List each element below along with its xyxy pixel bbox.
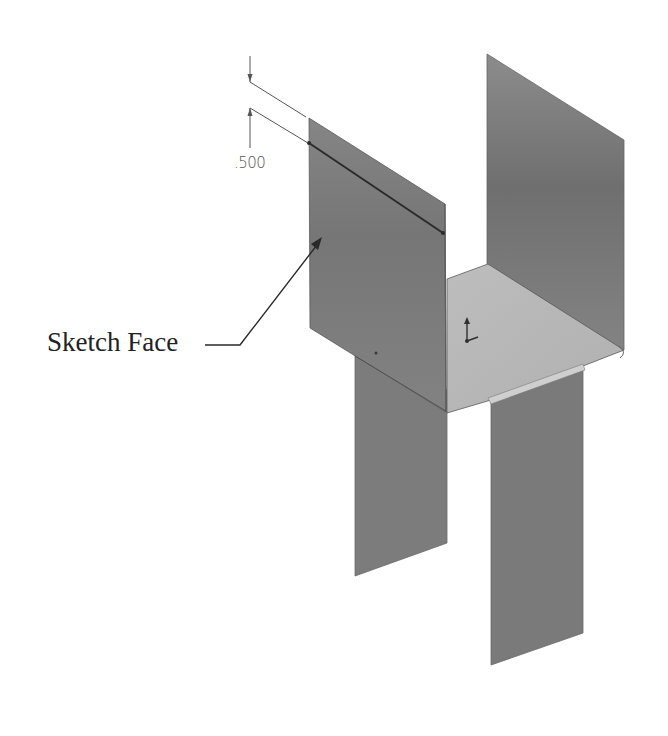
dimension-value: .500	[234, 154, 265, 172]
dimension-annotation	[248, 56, 309, 148]
callout-leader	[205, 237, 322, 345]
sketch-face-panel	[309, 118, 446, 412]
sheet-metal-diagram: .500 Sketch Face	[0, 0, 668, 736]
part-drawing	[0, 0, 668, 736]
surface-mark	[375, 352, 378, 355]
sketch-line-endpoint	[441, 231, 445, 235]
callout-label: Sketch Face	[47, 327, 178, 358]
lower-right-flange	[491, 369, 583, 665]
